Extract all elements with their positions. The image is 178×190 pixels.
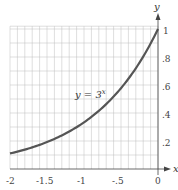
x-tick-label: -.5 xyxy=(112,176,124,186)
y-tick-label: .2 xyxy=(162,138,171,148)
x-tick-label: -1 xyxy=(77,176,86,186)
x-tick-label: 0 xyxy=(155,176,161,186)
curve-label: y = 3x xyxy=(74,88,106,100)
x-axis-label: x xyxy=(173,163,178,174)
x-tick-label: -2 xyxy=(6,176,15,186)
y-axis-arrow-icon xyxy=(156,13,161,20)
x-axis-arrow-icon xyxy=(164,167,171,172)
y-tick-label: .6 xyxy=(162,82,171,92)
y-axis-label: y xyxy=(153,1,160,12)
chart: x y -2 -1.5 -1 -.5 0 .2 .4 .6 .8 1 y = 3… xyxy=(0,0,178,190)
x-tick-label: -1.5 xyxy=(36,176,54,186)
y-tick-label: .4 xyxy=(162,110,171,120)
y-tick-label: .8 xyxy=(162,54,171,64)
y-tick-label: 1 xyxy=(163,26,169,36)
